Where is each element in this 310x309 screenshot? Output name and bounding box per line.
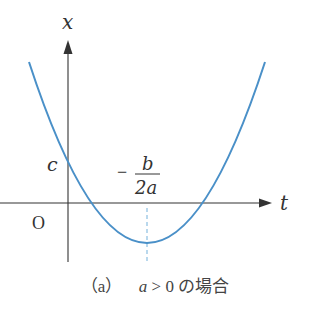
vertex-label-numerator: b bbox=[142, 153, 154, 174]
caption-condition-rest: > 0 の場合 bbox=[147, 277, 229, 296]
t-axis-label: t bbox=[280, 191, 289, 215]
vertex-label-sign: − bbox=[117, 162, 127, 182]
figure-caption: （a） a > 0 の場合 bbox=[0, 272, 310, 297]
intercept-label: c bbox=[47, 153, 58, 175]
x-axis-label: x bbox=[62, 10, 73, 34]
vertex-label-denominator: 2a bbox=[134, 177, 157, 198]
x-axis-arrow-icon bbox=[64, 40, 73, 54]
origin-label: O bbox=[32, 213, 45, 233]
vertex-label: − b 2a bbox=[117, 153, 160, 198]
caption-tag: （a） bbox=[81, 277, 123, 296]
t-axis-arrow-icon bbox=[259, 199, 272, 208]
parabola-diagram: x t O c − b 2a bbox=[0, 0, 310, 309]
